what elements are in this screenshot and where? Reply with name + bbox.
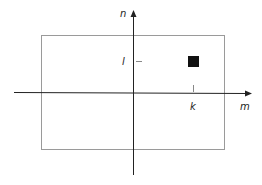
l-tick-label: l <box>122 56 125 67</box>
m-axis-label: m <box>240 101 250 112</box>
k-tick-label: k <box>190 101 197 112</box>
coordinate-diagram: n m l k <box>0 0 262 185</box>
m-axis <box>14 93 248 94</box>
n-axis-arrow-icon <box>131 10 137 17</box>
filled-square-point <box>188 56 199 67</box>
n-axis-label: n <box>120 8 126 19</box>
m-axis-arrow-icon <box>245 91 252 97</box>
